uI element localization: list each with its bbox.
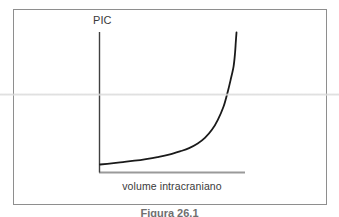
y-axis-label: PIC (93, 14, 112, 27)
x-axis-label: volume intracraniano (99, 180, 245, 193)
pressure-volume-curve (100, 33, 237, 165)
figure-caption: Figura 26.1 (0, 207, 339, 217)
chart-plot-area: PIC volume intracraniano (0, 0, 339, 217)
figure-root: PIC volume intracraniano Figura 26.1 (0, 0, 339, 217)
